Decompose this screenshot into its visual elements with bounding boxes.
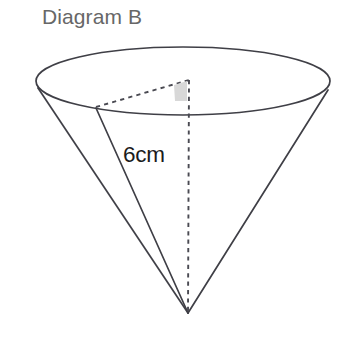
right-angle-icon	[174, 81, 187, 101]
cone-diagram-svg: 6cm	[0, 0, 355, 347]
cone-right-edge	[188, 90, 328, 313]
vertical-axis-dashed-line	[188, 80, 189, 313]
diagram-figure: Diagram B 6cm	[0, 0, 355, 347]
cone-left-edge	[38, 88, 188, 313]
cone-rim-ellipse	[36, 47, 330, 115]
slant-height-line	[96, 108, 188, 313]
slant-height-label: 6cm	[123, 142, 165, 167]
